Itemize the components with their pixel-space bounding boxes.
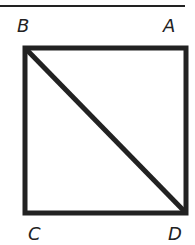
square-diagram [0, 0, 195, 245]
vertex-label-b: B [17, 17, 29, 35]
vertex-label-d: D [168, 225, 182, 243]
vertex-label-c: C [28, 225, 41, 243]
diagonal-bd [25, 48, 186, 213]
vertex-label-a: A [163, 17, 175, 35]
